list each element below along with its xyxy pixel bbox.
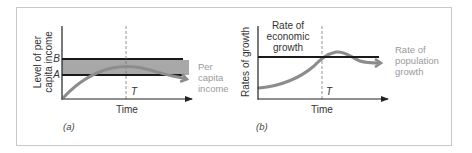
panel-a-curve-label-line3: income [198,83,229,94]
panel-b-caption: (b) [256,121,268,132]
panel-a-y-axis-label-line1: Level of per [32,35,43,88]
panel-b-curve-label-line3: growth [395,66,424,77]
panel-b-T-label: T [326,86,333,97]
panel-a-x-axis-label: Time [116,104,138,115]
panel-a-T-label: T [131,86,138,97]
panel-b-x-axis-label: Time [311,104,333,115]
panel-a-caption: (a) [63,121,75,132]
panel-a-label-B: B [53,53,60,64]
panel-b-line-label-line1: Rate of [272,20,304,31]
panel-b: Rates of growth Rate of economic growth … [240,20,439,132]
figure: Level of per capita income B A T Per cap… [0,0,472,153]
panel-b-line-label-line3: growth [273,42,303,53]
figure-frame [17,8,452,146]
panel-a: Level of per capita income B A T Per cap… [32,26,229,132]
panel-b-curve-label-line1: Rate of [395,44,426,55]
panel-a-curve-label-line2: capita [198,72,224,83]
panel-b-line-label-line2: economic [267,31,310,42]
panel-b-y-axis-label: Rates of growth [240,27,251,97]
panel-b-curve-label-line2: population [395,55,439,66]
panel-a-label-A: A [52,69,60,80]
panel-a-curve-label-line1: Per [198,61,213,72]
